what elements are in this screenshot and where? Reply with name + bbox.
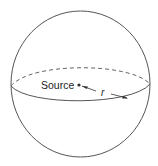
radius-label: r	[101, 87, 105, 98]
equator-back-dashed	[11, 68, 150, 86]
sphere-outline	[11, 11, 150, 157]
sphere-diagram: Source r	[0, 0, 158, 166]
equator-front	[11, 84, 150, 101]
arrowhead-left-icon	[82, 86, 88, 89]
source-point	[77, 83, 80, 86]
source-label: Source	[41, 79, 74, 91]
